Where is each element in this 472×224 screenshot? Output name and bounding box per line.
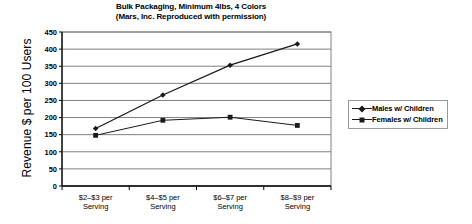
legend-label-females: Females w/ Children: [372, 115, 443, 124]
data-point-square: [228, 115, 233, 120]
x-tick-label: Serving: [217, 202, 242, 211]
y-tick-label: 50: [49, 165, 57, 174]
data-point-diamond: [227, 62, 233, 68]
y-tick-label: 200: [44, 113, 57, 122]
x-tick-label: $8–$9 per: [280, 193, 314, 202]
y-tick-label: 0: [53, 182, 57, 191]
data-point-diamond: [93, 126, 99, 132]
x-axis-tick-labels: $2–$3 perServing$4–$5 perServing$6–$7 pe…: [79, 193, 315, 211]
data-point-square: [93, 133, 98, 138]
x-tick-label: Serving: [285, 202, 310, 211]
plot-border: [62, 32, 331, 186]
legend-label-males: Males w/ Children: [372, 104, 434, 113]
legend-entry-males: Males w/ Children: [352, 103, 443, 114]
x-tick-label: $6–$7 per: [213, 193, 247, 202]
x-tick-label: Serving: [83, 202, 108, 211]
data-point-square: [160, 118, 165, 123]
y-tick-label: 250: [44, 96, 57, 105]
y-tick-label: 300: [44, 79, 57, 88]
diamond-marker-icon: [352, 103, 372, 114]
chart-figure: Bulk Packaging, Minimum 4lbs, 4 Colors (…: [0, 0, 472, 224]
series-line: [96, 117, 298, 135]
plot-frame: [62, 32, 331, 186]
data-point-diamond: [295, 41, 301, 47]
y-tick-label: 100: [44, 148, 57, 157]
y-axis-tick-labels: 050100150200250300350400450: [44, 28, 57, 191]
legend: Males w/ Children Females w/ Children: [348, 100, 448, 129]
x-tick-label: Serving: [150, 202, 175, 211]
y-tick-label: 400: [44, 45, 57, 54]
gridlines: [62, 32, 331, 169]
square-marker-icon: [352, 114, 372, 125]
data-series-group: [93, 41, 300, 138]
x-tick-label: $2–$3 per: [79, 193, 113, 202]
y-tick-label: 350: [44, 62, 57, 71]
y-tick-label: 450: [44, 28, 57, 37]
data-point-square: [295, 123, 300, 128]
series-line: [96, 44, 298, 129]
y-tick-label: 150: [44, 130, 57, 139]
data-point-diamond: [160, 92, 166, 98]
x-tick-label: $4–$5 per: [146, 193, 180, 202]
legend-entry-females: Females w/ Children: [352, 114, 443, 125]
